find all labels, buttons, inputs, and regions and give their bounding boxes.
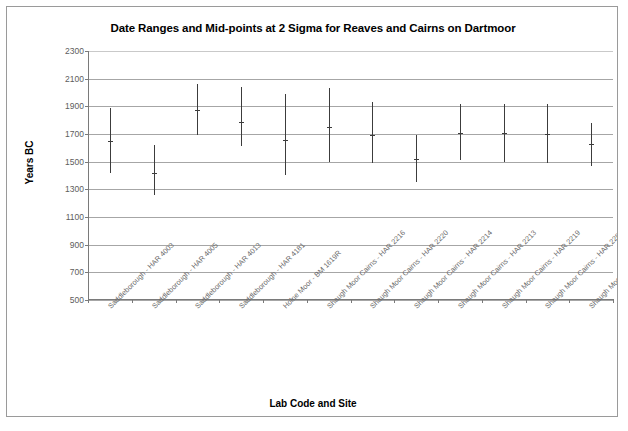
mid-point-marker xyxy=(370,135,375,136)
mid-point-marker xyxy=(414,159,419,160)
gridline xyxy=(88,134,613,135)
mid-point-marker xyxy=(152,173,157,174)
gridline xyxy=(88,217,613,218)
y-tick-label: 900 xyxy=(70,240,84,250)
y-tick-label: 2100 xyxy=(65,74,84,84)
plot-area: 2300210019001700150013001100900700500 xyxy=(88,51,613,300)
y-tick-label: 1900 xyxy=(65,101,84,111)
x-tick-mark xyxy=(613,299,614,303)
gridline xyxy=(88,51,613,52)
x-axis-labels: Saddleborough - HAR 4003Saddleborough - … xyxy=(88,300,613,400)
mid-point-marker xyxy=(327,127,332,128)
range-bar xyxy=(372,102,373,163)
gridline xyxy=(88,162,613,163)
mid-point-marker xyxy=(108,141,113,142)
y-tick-label: 1100 xyxy=(66,212,84,222)
mid-point-marker xyxy=(195,110,200,111)
mid-point-marker xyxy=(502,133,507,134)
x-axis-title: Lab Code and Site xyxy=(7,398,618,409)
range-bar xyxy=(460,104,461,161)
chart-frame: Date Ranges and Mid-points at 2 Sigma fo… xyxy=(6,6,618,417)
y-tick-label: 500 xyxy=(70,295,84,305)
mid-point-marker xyxy=(283,140,288,141)
y-tick-label: 700 xyxy=(70,267,84,277)
gridline xyxy=(88,189,613,190)
range-bar xyxy=(154,145,155,195)
y-tick-label: 2300 xyxy=(65,46,84,56)
footer-caption xyxy=(8,421,620,431)
mid-point-marker xyxy=(545,134,550,135)
range-bar xyxy=(241,87,242,146)
mid-point-marker xyxy=(239,122,244,123)
y-axis-line xyxy=(88,51,89,300)
chart-page: Date Ranges and Mid-points at 2 Sigma fo… xyxy=(0,0,628,431)
y-tick-label: 1500 xyxy=(65,157,84,167)
gridline xyxy=(88,79,613,80)
range-bar xyxy=(285,94,286,176)
y-axis-title: Years BC xyxy=(24,123,35,203)
mid-point-marker xyxy=(458,133,463,134)
gridline xyxy=(88,106,613,107)
y-tick-label: 1300 xyxy=(65,184,84,194)
range-bar xyxy=(329,88,330,161)
y-tick-label: 1700 xyxy=(65,129,84,139)
mid-point-marker xyxy=(589,144,594,145)
plot-background xyxy=(88,51,613,300)
chart-title: Date Ranges and Mid-points at 2 Sigma fo… xyxy=(7,22,618,34)
